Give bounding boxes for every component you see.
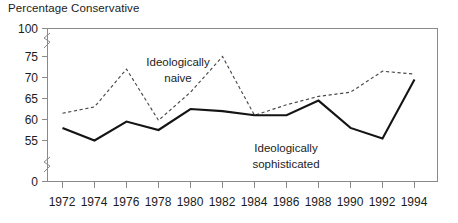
annotation-naive-line2: naive <box>164 72 192 84</box>
annotation-naive-line1: Ideologically <box>146 56 210 68</box>
annotation-ideologically-sophisticated: Ideologically sophisticated <box>252 142 319 170</box>
x-tick-label-1974: 1974 <box>81 195 108 209</box>
annotation-sophisticated-line1: Ideologically <box>254 142 318 154</box>
series-line-ideologically-sophisticated <box>63 80 415 141</box>
x-tick-labels: 1972 1974 1976 1978 1980 1982 1984 1986 … <box>49 195 428 209</box>
x-tick-label-1976: 1976 <box>113 195 140 209</box>
x-tick-label-1986: 1986 <box>273 195 300 209</box>
annotation-sophisticated-line2: sophisticated <box>252 158 319 170</box>
y-tick-label-75: 75 <box>25 50 39 64</box>
chart-container: Percentage Conservative 100 75 <box>0 0 458 223</box>
x-tick-label-1990: 1990 <box>337 195 364 209</box>
x-tick-label-1994: 1994 <box>401 195 428 209</box>
y-tick-label-0: 0 <box>31 175 38 189</box>
y-tick-label-70: 70 <box>25 71 39 85</box>
x-tick-label-1984: 1984 <box>241 195 268 209</box>
y-tick-label-100: 100 <box>18 22 38 36</box>
x-tick-label-1988: 1988 <box>305 195 332 209</box>
y-tick-label-65: 65 <box>25 92 39 106</box>
x-tick-label-1992: 1992 <box>369 195 396 209</box>
x-tick-marks <box>63 182 415 189</box>
x-tick-label-1982: 1982 <box>209 195 236 209</box>
x-tick-label-1978: 1978 <box>145 195 172 209</box>
x-tick-label-1980: 1980 <box>177 195 204 209</box>
y-tick-labels: 100 75 70 65 60 55 0 <box>18 22 38 189</box>
series-line-ideologically-naive <box>63 57 415 121</box>
y-tick-marks <box>42 29 48 182</box>
y-tick-label-55: 55 <box>25 134 39 148</box>
chart-plot-area: 100 75 70 65 60 55 0 1972 1974 <box>0 0 458 223</box>
y-tick-label-60: 60 <box>25 113 39 127</box>
annotation-ideologically-naive: Ideologically naive <box>146 56 210 84</box>
x-tick-label-1972: 1972 <box>49 195 76 209</box>
axes-group <box>48 28 439 182</box>
